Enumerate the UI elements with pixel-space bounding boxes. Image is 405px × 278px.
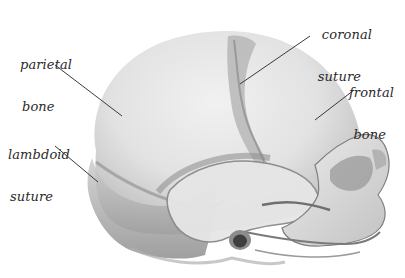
label-parietal-line2: bone (20, 100, 72, 114)
label-frontal-line2: bone (328, 128, 394, 142)
external-auditory-meatus (229, 230, 251, 250)
skull-diagram: parietal bone lambdoid suture coronal su… (0, 0, 405, 278)
label-frontal-bone: frontal bone (328, 58, 394, 170)
label-parietal-line1: parietal (20, 58, 72, 72)
label-frontal-line1: frontal (328, 86, 394, 100)
label-lambdoid-line2: suture (8, 190, 70, 204)
label-coronal-line1: coronal (302, 28, 372, 42)
label-lambdoid-suture: lambdoid suture (8, 120, 70, 232)
label-lambdoid-line1: lambdoid (8, 148, 70, 162)
